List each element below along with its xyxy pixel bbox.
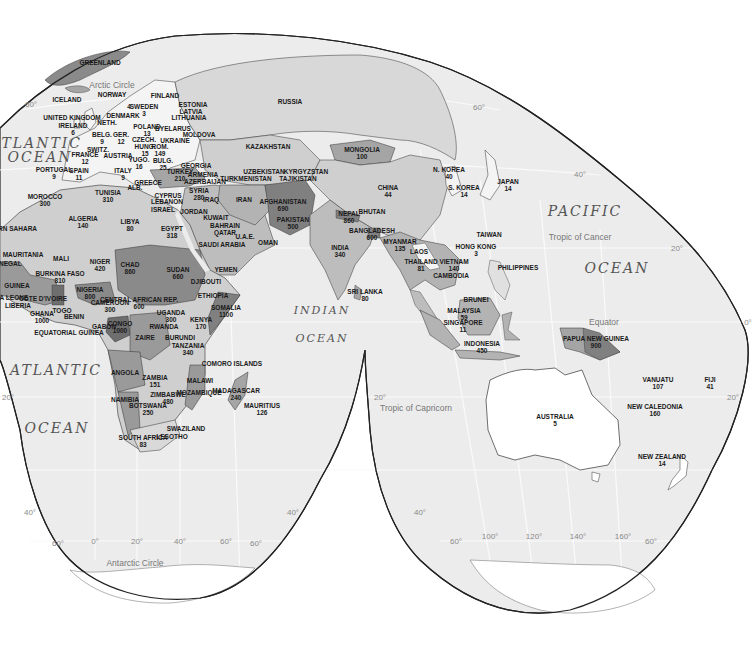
country-label: KYRGYZSTAN (284, 168, 328, 175)
graticule-label: 60° (220, 537, 232, 546)
country-label: BAHRAIN (210, 222, 240, 229)
graticule-label: 60° (473, 103, 485, 112)
country-name: BURUNDI (165, 334, 195, 341)
country-value: 12 (117, 138, 124, 145)
country-name: ZIMBABWE (150, 391, 186, 398)
country-value: 240 (231, 394, 242, 401)
country-name: MONGOLIA (344, 146, 380, 153)
country-label: BOTSWANA250 (129, 402, 167, 416)
country-label: DENMARK (106, 112, 139, 119)
country-value: 170 (196, 323, 207, 330)
country-label: INDIA340 (331, 244, 349, 258)
country-name: UGANDA (157, 309, 186, 316)
country-label: SINGAPORE11 (443, 319, 482, 333)
country-name: MADAGASCAR (212, 387, 260, 394)
country-name: RUSSIA (278, 98, 303, 105)
country-name: MALI (53, 255, 69, 262)
country-name: NIGERIA (76, 286, 103, 293)
country-label: NEW ZEALAND14 (638, 453, 686, 467)
country-value: 860 (344, 217, 355, 224)
country-value: 9 (100, 138, 104, 145)
country-value: 14 (504, 185, 511, 192)
graticule-label: 40° (414, 508, 426, 517)
country-name: BURKINA FASO (35, 270, 84, 277)
country-label: CAMEROON300 (91, 299, 130, 313)
country-label: JAPAN14 (497, 178, 519, 192)
country-name: NEPAL (338, 210, 360, 217)
country-name: BAHRAIN (210, 222, 240, 229)
country-label: CONGO1000 (108, 320, 133, 334)
country-label: LIBERIA (5, 302, 31, 309)
country-label: ZAMBIA151 (142, 374, 167, 388)
country-name: LAOS (410, 248, 428, 255)
country-value: 450 (477, 347, 488, 354)
country-label: RUSSIA (278, 98, 303, 105)
country-name: SOUTH AFRICA (119, 434, 168, 441)
country-name: YEMEN (214, 266, 237, 273)
country-label: WESTERN SAHARA (0, 225, 37, 232)
country-value: 420 (95, 265, 106, 272)
ocean-label-atlantic-north-2: OCEAN (8, 149, 73, 165)
country-label: NORWAY (98, 91, 127, 98)
country-name: PAPUA NEW GUINEA (563, 335, 629, 342)
country-label: KUWAIT (203, 214, 229, 221)
country-name: CONGO (108, 320, 133, 327)
country-label: GER.12 (113, 131, 129, 145)
country-label: AUSTRALIA5 (536, 413, 574, 427)
country-value: 126 (257, 409, 268, 416)
country-name: ALGERIA (68, 215, 97, 222)
country-name: TAIWAN (476, 231, 501, 238)
country-name: KENYA (190, 316, 212, 323)
country-name: GUINEA (4, 282, 29, 289)
country-name: DJIBOUTI (191, 278, 221, 285)
country-label: SOMALIA1100 (211, 304, 241, 318)
country-value: 12 (81, 158, 88, 165)
graticule-label: 40° (24, 508, 36, 517)
country-name: RWANDA (149, 323, 178, 330)
country-name: FRANCE (71, 151, 98, 158)
country-name: ALB. (127, 184, 142, 191)
country-value: 11 (76, 174, 83, 181)
country-value: 4 (127, 103, 131, 110)
country-label: MAURITIUS126 (244, 402, 280, 416)
country-label: MADAGASCAR240 (212, 387, 260, 401)
antarctic-circle-label: Antarctic Circle (106, 558, 163, 568)
country-name: PAKISTAN (277, 216, 309, 223)
country-value: 100 (357, 153, 368, 160)
country-name: GREENLAND (79, 59, 120, 66)
country-value: 660 (173, 273, 184, 280)
country-value: 11 (460, 326, 467, 333)
country-value: 9 (52, 173, 56, 180)
tropic-of-cancer-label: Tropic of Cancer (549, 232, 612, 242)
country-value: 160 (650, 410, 661, 417)
country-value: 600 (134, 303, 145, 310)
country-value: 340 (183, 349, 194, 356)
country-name: PHILIPPINES (498, 264, 538, 271)
country-label: AFGHANISTAN690 (260, 198, 307, 212)
country-name: UNITED KINGDOM (43, 114, 100, 121)
country-label: FINLAND (151, 92, 180, 99)
country-label: SUDAN660 (166, 266, 189, 280)
country-name: BRUNEI (464, 296, 489, 303)
country-name: MOROCCO (28, 193, 63, 200)
country-name: GHANA (30, 310, 54, 317)
country-name: EQUATORIAL GUINEA (34, 329, 103, 336)
country-value: 5 (553, 420, 557, 427)
country-name: DENMARK (106, 112, 139, 119)
country-name: TUNISIA (95, 189, 121, 196)
country-label: NEPAL860 (338, 210, 360, 224)
country-value: 300 (40, 200, 51, 207)
country-label: SOUTH AFRICA83 (119, 434, 168, 448)
graticule-label: 120° (526, 532, 543, 541)
country-value: 3 (474, 250, 478, 257)
country-label: UZBEKISTAN (243, 168, 284, 175)
country-name: LIBERIA (5, 302, 31, 309)
country-name: SAUDI ARABIA (198, 241, 245, 248)
country-name: CAMBODIA (433, 272, 469, 279)
country-label: TUNISIA310 (95, 189, 121, 203)
country-name: THAILAND (404, 258, 437, 265)
country-name: BENIN (64, 313, 84, 320)
country-name: CHAD (121, 261, 140, 268)
country-name: SINGAPORE (443, 319, 482, 326)
country-name: OMAN (258, 239, 278, 246)
